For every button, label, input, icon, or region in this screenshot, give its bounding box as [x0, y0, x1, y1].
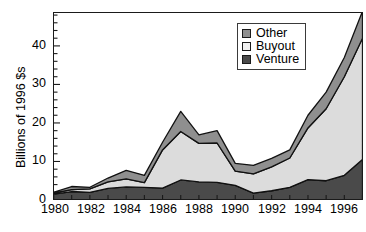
- x-tick-label: 1992: [258, 203, 286, 216]
- x-axis-tick-labels: 1980 1982 1984 1986 1988 1990 1992 1994 …: [0, 203, 366, 223]
- x-tick-label: 1988: [185, 203, 213, 216]
- stacked-area-svg: [54, 13, 362, 199]
- chart-legend[interactable]: Other Buyout Venture: [237, 23, 306, 70]
- y-axis-ticks: [54, 15, 60, 199]
- legend-item-other[interactable]: Other: [242, 27, 299, 40]
- y-axis-tick-labels: 40 30 20 10 0: [0, 0, 50, 232]
- legend-item-venture[interactable]: Venture: [242, 53, 299, 66]
- x-tick-label: 1982: [77, 203, 105, 216]
- y-tick-label: 20: [32, 116, 46, 129]
- y-tick-label: 10: [32, 154, 46, 167]
- plot-area: [53, 12, 363, 200]
- x-tick-label: 1990: [221, 203, 249, 216]
- legend-label-buyout: Buyout: [256, 40, 295, 53]
- area-series-group: [54, 13, 362, 199]
- x-tick-label: 1996: [330, 203, 358, 216]
- x-tick-label: 1984: [113, 203, 141, 216]
- figure-area-chart: Billions of 1996 $s 40 30 20 10 0 1980 1…: [0, 0, 366, 232]
- x-tick-label: 1986: [149, 203, 177, 216]
- y-tick-label: 30: [32, 77, 46, 90]
- legend-label-other: Other: [256, 27, 287, 40]
- legend-swatch-venture: [242, 55, 251, 64]
- x-tick-label: 1980: [41, 203, 69, 216]
- legend-item-buyout[interactable]: Buyout: [242, 40, 299, 53]
- legend-label-venture: Venture: [256, 53, 299, 66]
- y-tick-label: 40: [32, 39, 46, 52]
- legend-swatch-other: [242, 29, 251, 38]
- legend-swatch-buyout: [242, 42, 251, 51]
- x-tick-label: 1994: [294, 203, 322, 216]
